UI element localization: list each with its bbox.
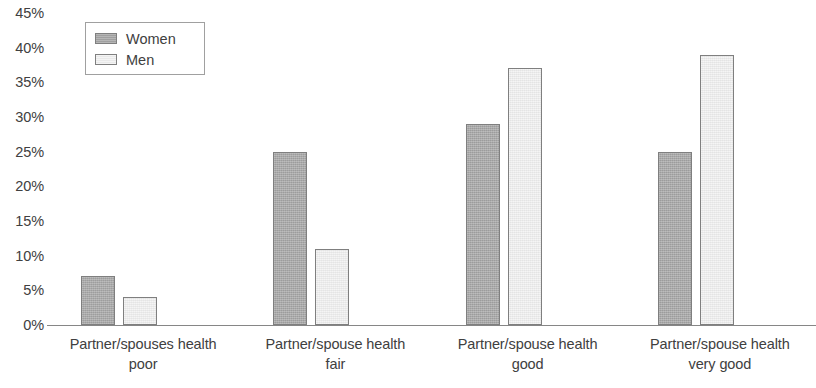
- x-tick-label: Partner/spouse healthvery good: [624, 334, 816, 374]
- bar-women: [466, 124, 500, 325]
- bar-women: [658, 152, 692, 325]
- x-tick-label-line: fair: [239, 354, 431, 374]
- x-axis-line: [47, 325, 816, 326]
- bar-group: [47, 13, 239, 325]
- x-tick-label-line: Partner/spouse health: [432, 334, 624, 354]
- bar-men: [315, 249, 349, 325]
- y-tick-label: 0%: [0, 318, 44, 332]
- y-tick-label: 15%: [0, 214, 44, 228]
- y-tick-label: 45%: [0, 6, 44, 20]
- y-tick-label: 35%: [0, 75, 44, 89]
- x-tick-label-line: Partner/spouses health: [47, 334, 239, 354]
- bar-chart: 45%40%35%30%25%20%15%10%5%0% Women Men P…: [0, 0, 816, 388]
- bar-group: [624, 13, 816, 325]
- y-tick-label: 10%: [0, 249, 44, 263]
- y-tick-label: 25%: [0, 145, 44, 159]
- y-tick-label: 40%: [0, 41, 44, 55]
- x-tick-label-line: Partner/spouse health: [239, 334, 431, 354]
- x-tick-label-line: poor: [47, 354, 239, 374]
- y-axis: 45%40%35%30%25%20%15%10%5%0%: [0, 0, 44, 388]
- y-tick-label: 5%: [0, 283, 44, 297]
- bar-group: [239, 13, 431, 325]
- x-tick-label-line: very good: [624, 354, 816, 374]
- bar-men: [508, 68, 542, 325]
- x-tick-label: Partner/spouses healthpoor: [47, 334, 239, 374]
- bar-women: [81, 276, 115, 325]
- bar-group: [432, 13, 624, 325]
- x-tick-label: Partner/spouse healthfair: [239, 334, 431, 374]
- y-tick-label: 30%: [0, 110, 44, 124]
- bar-women: [273, 152, 307, 325]
- x-axis: Partner/spouses healthpoorPartner/spouse…: [47, 334, 816, 388]
- x-tick-label-line: good: [432, 354, 624, 374]
- x-tick-label-line: Partner/spouse health: [624, 334, 816, 354]
- bar-men: [700, 55, 734, 325]
- bar-men: [123, 297, 157, 325]
- x-tick-label: Partner/spouse healthgood: [432, 334, 624, 374]
- y-tick-label: 20%: [0, 179, 44, 193]
- plot-area: [47, 13, 816, 325]
